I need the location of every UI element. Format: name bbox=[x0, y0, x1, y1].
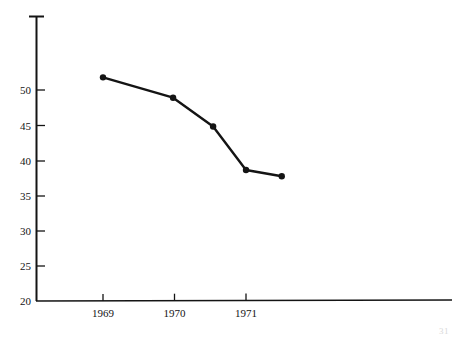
x-tick-label-1970: 1970 bbox=[164, 307, 187, 319]
y-tick-label-50: 50 bbox=[20, 84, 32, 96]
series-line bbox=[103, 77, 282, 176]
y-tick-label-40: 40 bbox=[20, 155, 32, 167]
series-markers bbox=[100, 74, 285, 179]
y-axis-tick-labels: 50 45 40 35 30 25 20 bbox=[20, 84, 32, 307]
data-point bbox=[279, 173, 285, 179]
x-axis-line bbox=[36, 300, 452, 301]
data-point bbox=[170, 95, 176, 101]
chart-canvas: 50 45 40 35 30 25 20 1969 1970 1971 bbox=[0, 0, 459, 338]
y-tick-label-20: 20 bbox=[20, 295, 32, 307]
x-tick-label-1969: 1969 bbox=[92, 307, 115, 319]
data-point bbox=[243, 167, 249, 173]
x-axis-tick-labels: 1969 1970 1971 bbox=[92, 307, 257, 319]
page-number: 31 bbox=[439, 326, 449, 336]
y-tick-label-30: 30 bbox=[20, 225, 32, 237]
data-series bbox=[100, 74, 285, 179]
y-tick-label-45: 45 bbox=[20, 120, 32, 132]
line-chart: 50 45 40 35 30 25 20 1969 1970 1971 31 bbox=[0, 0, 459, 338]
y-tick-label-35: 35 bbox=[20, 190, 32, 202]
y-tick-label-25: 25 bbox=[20, 260, 32, 272]
data-point bbox=[100, 74, 106, 80]
x-tick-label-1971: 1971 bbox=[235, 307, 257, 319]
data-point bbox=[210, 123, 216, 129]
